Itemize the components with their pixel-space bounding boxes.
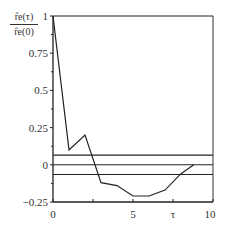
x-tick-label: τ bbox=[171, 208, 176, 220]
x-tick-label: 0 bbox=[50, 208, 56, 220]
data-series-line bbox=[53, 16, 194, 196]
y-tick-label: −0.25 bbox=[23, 196, 49, 208]
y-tick-label: 0.25 bbox=[29, 122, 49, 134]
x-tick-label: 10 bbox=[205, 208, 217, 220]
chart-canvas: −0.2500.250.50.75105τ10 bbox=[0, 0, 233, 238]
reference-lines bbox=[53, 16, 213, 174]
y-tick-label: 0.5 bbox=[34, 84, 48, 96]
x-tick-label: 5 bbox=[130, 208, 136, 220]
y-tick-label: 1 bbox=[43, 10, 49, 22]
tick-labels: −0.2500.250.50.75105τ10 bbox=[23, 10, 216, 220]
y-tick-label: 0 bbox=[43, 159, 49, 171]
y-tick-label: 0.75 bbox=[29, 47, 49, 59]
